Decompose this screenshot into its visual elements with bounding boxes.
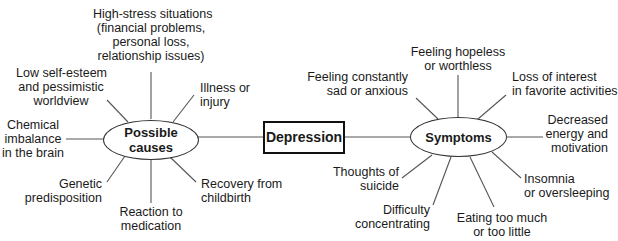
branch-node-possible-causes: Possible causes: [103, 120, 199, 160]
cause-low-self-esteem: Low self-esteem and pessimistic worldvie…: [16, 66, 106, 108]
branch-node-label: causes: [129, 140, 173, 155]
symptom-eating: Eating too much or too little: [452, 211, 552, 239]
branch-node-label: Possible: [124, 125, 177, 140]
symptom-sad-anxious: Feeling constantly sad or anxious: [298, 70, 408, 98]
symptom-decreased-energy: Decreased energy and motivation: [540, 113, 608, 155]
center-node-label: Depression: [266, 130, 342, 145]
cause-chemical-imbalance: Chemical imbalance in the brain: [2, 118, 64, 160]
cause-illness: Illness or injury: [200, 81, 250, 109]
cause-reaction-medication: Reaction to medication: [116, 205, 186, 233]
branch-node-label: Symptoms: [425, 130, 491, 145]
symptom-insomnia: Insomnia or oversleeping: [524, 172, 609, 200]
symptom-thoughts-of-suicide: Thoughts of suicide: [324, 165, 399, 193]
symptom-loss-of-interest: Loss of interest in favorite activities: [512, 70, 618, 98]
symptom-hopeless: Feeling hopeless or worthless: [410, 45, 506, 73]
cause-high-stress: High-stress situations (financial proble…: [93, 7, 209, 63]
symptom-difficulty-concentrating: Difficulty concentrating: [350, 203, 430, 231]
branch-node-symptoms: Symptoms: [410, 117, 507, 157]
cause-genetic: Genetic predisposition: [14, 177, 102, 205]
cause-recovery-childbirth: Recovery from childbirth: [201, 177, 282, 205]
center-node-depression: Depression: [263, 121, 345, 154]
